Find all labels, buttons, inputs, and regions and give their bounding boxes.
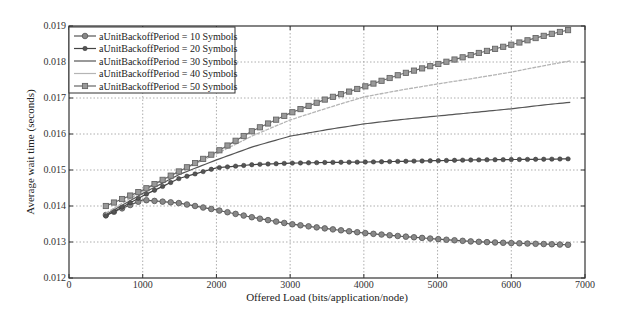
x-tick-labels: 01000200030004000500060007000 xyxy=(67,279,596,290)
y-tick-label: 0.017 xyxy=(44,92,67,103)
x-tick-label: 3000 xyxy=(280,279,300,290)
legend-label: aUnitBackoffPeriod = 30 Symbols xyxy=(99,56,238,67)
x-tick-label: 1000 xyxy=(133,279,153,290)
y-tick-label: 0.018 xyxy=(44,56,67,67)
y-tick-label: 0.015 xyxy=(44,164,67,175)
legend-label: aUnitBackoffPeriod = 50 Symbols xyxy=(99,81,238,92)
legend-entry: aUnitBackoffPeriod = 30 Symbols xyxy=(74,56,238,67)
y-tick-label: 0.012 xyxy=(44,272,67,283)
x-axis-label: Offered Load (bits/application/node) xyxy=(246,291,408,304)
legend-label: aUnitBackoffPeriod = 40 Symbols xyxy=(99,68,238,79)
y-tick-label: 0.019 xyxy=(44,20,67,31)
legend: aUnitBackoffPeriod = 10 SymbolsaUnitBack… xyxy=(69,27,238,93)
x-tick-label: 7000 xyxy=(575,279,595,290)
legend-label: aUnitBackoffPeriod = 10 Symbols xyxy=(99,31,238,42)
y-tick-labels: 0.0120.0130.0140.0150.0160.0170.0180.019 xyxy=(44,20,67,283)
line-chart: 01000200030004000500060007000 0.0120.013… xyxy=(0,0,626,314)
series-3 xyxy=(106,102,570,214)
x-tick-label: 6000 xyxy=(501,279,521,290)
legend-entry: aUnitBackoffPeriod = 10 Symbols xyxy=(74,31,238,42)
y-tick-label: 0.013 xyxy=(44,236,67,247)
series-1 xyxy=(103,197,571,247)
x-tick-label: 2000 xyxy=(206,279,226,290)
y-axis-label: Average wait time (seconds) xyxy=(24,89,37,215)
y-tick-label: 0.016 xyxy=(44,128,67,139)
x-tick-label: 5000 xyxy=(428,279,448,290)
series-2 xyxy=(104,157,571,219)
legend-label: aUnitBackoffPeriod = 20 Symbols xyxy=(99,43,238,54)
x-tick-label: 4000 xyxy=(354,279,374,290)
x-tick-label: 0 xyxy=(67,279,72,290)
y-tick-label: 0.014 xyxy=(44,200,67,211)
legend-entry: aUnitBackoffPeriod = 40 Symbols xyxy=(74,68,238,79)
legend-entry: aUnitBackoffPeriod = 50 Symbols xyxy=(74,81,238,92)
legend-entry: aUnitBackoffPeriod = 20 Symbols xyxy=(74,43,238,54)
